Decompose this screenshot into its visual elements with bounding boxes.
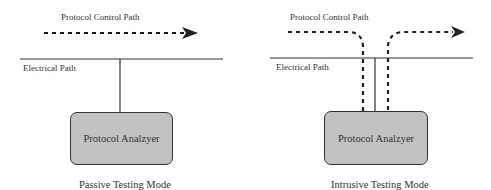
- intrusive-control-path-label: Protocol Control Path: [290, 12, 369, 22]
- passive-analyzer-label: Protocol Analzyer: [83, 133, 159, 144]
- passive-arrowhead-icon: [182, 27, 198, 39]
- intrusive-control-path-out: [388, 32, 453, 110]
- passive-protocol-analyzer-box: Protocol Analzyer: [70, 112, 173, 165]
- intrusive-electrical-path-label: Electrical Path: [276, 62, 329, 72]
- intrusive-protocol-analyzer-box: Protocol Analzyer: [324, 111, 428, 165]
- passive-caption: Passive Testing Mode: [79, 179, 171, 190]
- intrusive-caption: Intrusive Testing Mode: [331, 179, 429, 190]
- passive-control-path-label: Protocol Control Path: [61, 12, 140, 22]
- intrusive-analyzer-label: Protocol Analzyer: [338, 133, 414, 144]
- intrusive-arrowhead-icon: [451, 26, 465, 38]
- passive-electrical-path-label: Electrical Path: [23, 63, 76, 73]
